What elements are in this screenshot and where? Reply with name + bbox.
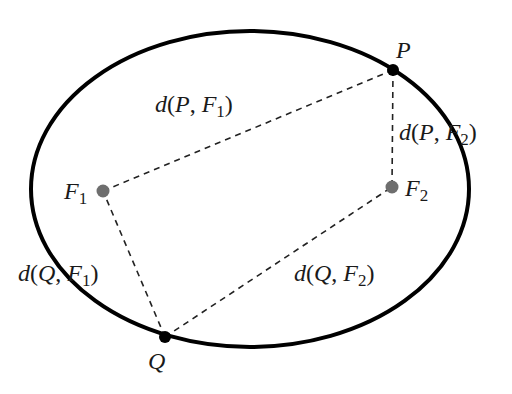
segment-P-F2 bbox=[392, 70, 393, 187]
paren-open: ( bbox=[167, 91, 175, 117]
segment-Q-F1 bbox=[103, 191, 165, 337]
ellipse-diagram: P Q F1 F2 d(P, F1) d(P, F2) d(Q, F1) d(Q… bbox=[0, 0, 512, 394]
label-F1-subscript: 1 bbox=[79, 189, 88, 208]
comma: , bbox=[331, 260, 343, 286]
paren-open: ( bbox=[30, 260, 38, 286]
dist-fn: d bbox=[399, 119, 411, 145]
label-d-P-F2: d(P, F2) bbox=[399, 120, 477, 148]
focus-F1-dot bbox=[97, 185, 110, 198]
label-d-P-F1: d(P, F1) bbox=[155, 92, 233, 120]
paren-close: ) bbox=[367, 260, 375, 286]
paren-close: ) bbox=[225, 91, 233, 117]
label-P: P bbox=[396, 38, 411, 62]
dist-fn: d bbox=[294, 260, 306, 286]
focus-F2-dot bbox=[386, 181, 399, 194]
dist-fn: d bbox=[155, 91, 167, 117]
dist-arg-b-sub: 2 bbox=[358, 271, 367, 290]
dist-arg-b: F bbox=[67, 260, 82, 286]
dist-arg-a: P bbox=[419, 119, 434, 145]
paren-close: ) bbox=[91, 260, 99, 286]
comma: , bbox=[190, 91, 202, 117]
ellipse-curve bbox=[31, 31, 469, 347]
dist-arg-b: F bbox=[343, 260, 358, 286]
label-F2-text: F bbox=[405, 175, 420, 201]
segment-P-F1 bbox=[103, 70, 393, 191]
dist-arg-a: Q bbox=[314, 260, 331, 286]
dist-arg-b-sub: 1 bbox=[82, 271, 91, 290]
dist-arg-b: F bbox=[202, 91, 217, 117]
dist-arg-b: F bbox=[446, 119, 461, 145]
dist-arg-b-sub: 2 bbox=[460, 130, 469, 149]
point-Q-dot bbox=[159, 331, 171, 343]
label-Q: Q bbox=[148, 349, 165, 373]
label-F1: F1 bbox=[64, 179, 87, 207]
dist-arg-a: P bbox=[175, 91, 190, 117]
label-Q-text: Q bbox=[148, 348, 165, 374]
label-d-Q-F2: d(Q, F2) bbox=[294, 261, 375, 289]
paren-close: ) bbox=[469, 119, 477, 145]
paren-open: ( bbox=[411, 119, 419, 145]
label-F2: F2 bbox=[405, 176, 428, 204]
label-d-Q-F1: d(Q, F1) bbox=[18, 261, 99, 289]
comma: , bbox=[434, 119, 446, 145]
dist-arg-a: Q bbox=[38, 260, 55, 286]
dist-arg-b-sub: 1 bbox=[216, 102, 225, 121]
label-F1-text: F bbox=[64, 178, 79, 204]
dist-fn: d bbox=[18, 260, 30, 286]
point-P-dot bbox=[387, 64, 399, 76]
label-F2-subscript: 2 bbox=[420, 186, 429, 205]
paren-open: ( bbox=[306, 260, 314, 286]
label-P-text: P bbox=[396, 37, 411, 63]
comma: , bbox=[55, 260, 67, 286]
